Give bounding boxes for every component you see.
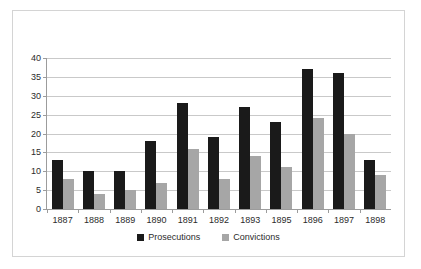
x-tick-mark-1891 — [172, 209, 173, 213]
bar-convictions-1887 — [63, 179, 74, 209]
plot-area: 40 35 30 25 20 15 10 5 — [47, 58, 391, 209]
bar-group-1895: 1895 — [266, 58, 297, 209]
bar-group-1898: 1898 — [360, 58, 391, 209]
x-tick-mark-1893 — [235, 209, 236, 213]
legend-swatch-prosecutions-icon — [137, 234, 144, 241]
bar-group-1897: 1897 — [328, 58, 359, 209]
x-tick-mark-1890 — [141, 209, 142, 213]
x-tick-label-1889: 1889 — [110, 216, 141, 225]
y-tick-label-30: 30 — [31, 91, 41, 100]
legend-label-prosecutions: Prosecutions — [148, 233, 200, 242]
bar-convictions-1896 — [313, 118, 324, 209]
y-tick-label-35: 35 — [31, 72, 41, 81]
bar-prosecutions-1892 — [208, 137, 219, 209]
chart-legend: Prosecutions Convictions — [13, 233, 404, 242]
gridline-0: 0 — [47, 209, 391, 210]
bar-group-1896: 1896 — [297, 58, 328, 209]
chart-frame: 40 35 30 25 20 15 10 5 — [12, 10, 405, 257]
bar-group-1889: 1889 — [110, 58, 141, 209]
bar-prosecutions-1896 — [302, 69, 313, 209]
bar-prosecutions-1889 — [114, 171, 125, 209]
legend-label-convictions: Convictions — [233, 233, 280, 242]
y-tick-label-40: 40 — [31, 54, 41, 63]
bar-convictions-1890 — [156, 183, 167, 209]
bar-group-1891: 1891 — [172, 58, 203, 209]
bar-prosecutions-1887 — [52, 160, 63, 209]
bar-group-1887: 1887 — [47, 58, 78, 209]
x-tick-mark-1892 — [203, 209, 204, 213]
legend-swatch-convictions-icon — [222, 234, 229, 241]
x-tick-mark-1888 — [78, 209, 79, 213]
bar-convictions-1888 — [94, 194, 105, 209]
x-tick-label-1893: 1893 — [235, 216, 266, 225]
x-tick-label-1891: 1891 — [172, 216, 203, 225]
bar-convictions-1895 — [281, 167, 292, 209]
x-tick-label-1888: 1888 — [78, 216, 109, 225]
legend-item-convictions[interactable]: Convictions — [222, 233, 280, 242]
x-tick-label-1896: 1896 — [297, 216, 328, 225]
y-tick-label-10: 10 — [31, 167, 41, 176]
bar-prosecutions-1888 — [83, 171, 94, 209]
x-tick-mark-1898 — [360, 209, 361, 213]
bar-prosecutions-1891 — [177, 103, 188, 209]
bar-convictions-1893 — [250, 156, 261, 209]
y-tick-label-15: 15 — [31, 148, 41, 157]
bar-convictions-1892 — [219, 179, 230, 209]
x-tick-label-1895: 1895 — [266, 216, 297, 225]
x-tick-mark-1889 — [110, 209, 111, 213]
y-tick-label-0: 0 — [36, 205, 41, 214]
bar-prosecutions-1893 — [239, 107, 250, 209]
legend-item-prosecutions[interactable]: Prosecutions — [137, 233, 200, 242]
x-tick-label-1897: 1897 — [328, 216, 359, 225]
x-tick-mark-1896 — [297, 209, 298, 213]
bar-group-1890: 1890 — [141, 58, 172, 209]
x-tick-mark-1897 — [328, 209, 329, 213]
bar-prosecutions-1897 — [333, 73, 344, 209]
x-tick-label-1887: 1887 — [47, 216, 78, 225]
bar-convictions-1898 — [375, 175, 386, 209]
bar-group-1893: 1893 — [235, 58, 266, 209]
x-tick-mark-1887 — [47, 209, 48, 213]
bar-groups: 1887 1888 1889 1890 — [47, 58, 391, 209]
y-tick-label-25: 25 — [31, 110, 41, 119]
x-tick-label-1892: 1892 — [203, 216, 234, 225]
y-tick-label-20: 20 — [31, 129, 41, 138]
bar-convictions-1897 — [344, 134, 355, 210]
x-tick-label-1898: 1898 — [360, 216, 391, 225]
bar-group-1888: 1888 — [78, 58, 109, 209]
x-tick-label-1890: 1890 — [141, 216, 172, 225]
bar-convictions-1889 — [125, 190, 136, 209]
x-tick-mark-1895 — [266, 209, 267, 213]
bar-prosecutions-1895 — [270, 122, 281, 209]
bar-convictions-1891 — [188, 149, 199, 209]
bar-group-1892: 1892 — [203, 58, 234, 209]
bar-prosecutions-1898 — [364, 160, 375, 209]
bar-prosecutions-1890 — [145, 141, 156, 209]
y-tick-label-5: 5 — [36, 186, 41, 195]
